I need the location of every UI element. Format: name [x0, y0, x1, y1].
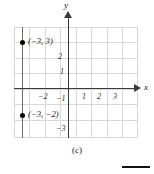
y-axis-arrow-icon — [64, 11, 72, 18]
gridline-horizontal — [14, 104, 138, 105]
x-tick-label-1: 1 — [82, 92, 86, 101]
gridline-vertical — [14, 27, 15, 138]
gridline-vertical — [76, 27, 77, 138]
y-tick-label-negative-3: −3 — [56, 124, 65, 133]
data-point-label-negative3-negative2: (−3, −2) — [28, 109, 59, 119]
bottom-rule-divider — [122, 166, 150, 168]
gridline-horizontal — [14, 58, 138, 59]
y-tick-label-1: 1 — [60, 67, 64, 76]
x-tick-label-negative-2: −2 — [38, 92, 47, 101]
x-tick-label-3: 3 — [113, 92, 117, 101]
data-point-negative3-3 — [20, 40, 25, 45]
gridline-vertical — [122, 27, 123, 138]
gridline-horizontal — [14, 137, 138, 138]
gridline-vertical — [91, 27, 92, 138]
figure-caption: (c) — [0, 145, 154, 155]
x-axis-label: x — [144, 82, 148, 92]
gridline-horizontal — [14, 27, 138, 28]
x-axis-arrow-icon — [134, 84, 141, 92]
data-point-negative3-negative2 — [20, 113, 25, 118]
gridline-horizontal — [14, 89, 138, 90]
x-axis — [14, 88, 136, 89]
y-tick-label-negative-1: −1 — [56, 94, 65, 103]
gridline-vertical — [107, 27, 108, 138]
graph-figure: x y −2 1 2 3 2 1 −1 −3 (−3, 3) (−3, −2) … — [0, 0, 154, 174]
gridline-vertical — [60, 27, 61, 138]
y-axis-label: y — [64, 0, 68, 10]
gridline-vertical — [137, 27, 138, 138]
gridline-horizontal — [14, 120, 138, 121]
gridline-horizontal — [14, 73, 138, 74]
y-tick-label-2: 2 — [58, 52, 62, 61]
y-axis — [68, 17, 69, 138]
data-point-label-negative3-3: (−3, 3) — [28, 36, 53, 46]
x-tick-label-2: 2 — [97, 92, 101, 101]
